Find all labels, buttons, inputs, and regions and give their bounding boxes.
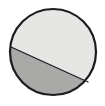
shaded-circle-diagram [0, 0, 105, 106]
circle-figure-canvas [0, 0, 105, 106]
